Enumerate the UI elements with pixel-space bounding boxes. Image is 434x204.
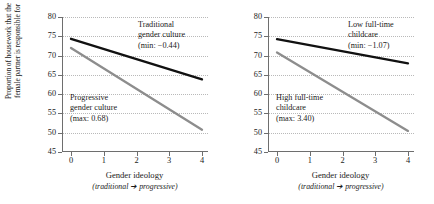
y-tick-label-55: 55 (34, 109, 56, 117)
y-tick-label-80: 80 (34, 13, 56, 21)
annotation-line-1: Traditional (138, 20, 185, 30)
x-tick-label-4: 4 (192, 157, 212, 165)
annotation-line-1: Progressive (70, 93, 117, 103)
plot-area-right: 80 75 70 65 60 55 50 45 0 1 2 3 4 Low fu… (268, 17, 413, 152)
y-axis-title: Proportion of housework that the female … (4, 0, 38, 116)
y-tick-label-70: 70 (240, 52, 262, 60)
x-tick-label-4: 4 (398, 157, 418, 165)
annotation-line-1: Low full-time (348, 20, 394, 30)
x-axis-subtitle: (traditional ➔ progressive) (261, 182, 421, 191)
y-tick-45 (264, 152, 268, 153)
x-tick-label-0: 0 (267, 157, 287, 165)
y-tick-label-75: 75 (34, 32, 56, 40)
chart-panel-right: 80 75 70 65 60 55 50 45 0 1 2 3 4 Low fu… (217, 0, 434, 204)
annotation-traditional-gender-culture: Traditional gender culture (min: −0.44) (138, 20, 185, 51)
y-tick-label-45: 45 (240, 148, 262, 156)
y-tick-label-70: 70 (34, 52, 56, 60)
x-tick-label-3: 3 (365, 157, 385, 165)
y-tick-label-55: 55 (240, 109, 262, 117)
y-tick-45 (58, 152, 62, 153)
annotation-line-3: (max: 0.68) (70, 114, 117, 124)
annotation-line-2: gender culture (70, 103, 117, 113)
y-tick-label-50: 50 (240, 129, 262, 137)
y-tick-label-75: 75 (240, 32, 262, 40)
x-axis-title: Gender ideology (62, 170, 207, 180)
y-tick-label-60: 60 (34, 90, 56, 98)
annotation-line-3: (min: −0.44) (138, 41, 185, 51)
y-tick-label-80: 80 (240, 13, 262, 21)
plot-area-left: 80 75 70 65 60 55 50 45 0 1 2 3 4 (62, 17, 207, 152)
annotation-line-1: High full-time (276, 93, 323, 103)
y-axis-title-line-1: Proportion of housework that the (4, 0, 13, 116)
x-axis-subtitle-text: (traditional ➔ progressive) (298, 182, 383, 191)
figure-two-panel-line-charts: Proportion of housework that the female … (0, 0, 434, 204)
x-tick-label-1: 1 (300, 157, 320, 165)
x-axis-subtitle: (traditional ➔ progressive) (55, 182, 215, 191)
annotation-line-2: childcare (276, 103, 323, 113)
series-lines-left (62, 17, 207, 152)
annotation-line-2: childcare (348, 30, 394, 40)
y-tick-label-65: 65 (34, 71, 56, 79)
x-tick-label-3: 3 (159, 157, 179, 165)
x-tick-label-2: 2 (333, 157, 353, 165)
x-tick-label-2: 2 (127, 157, 147, 165)
y-tick-label-50: 50 (34, 129, 56, 137)
annotation-low-full-time-childcare: Low full-time childcare (min: −1.07) (348, 20, 394, 51)
annotation-progressive-gender-culture: Progressive gender culture (max: 0.68) (70, 93, 117, 124)
x-axis-title: Gender ideology (268, 170, 413, 180)
chart-panel-left: Proportion of housework that the female … (0, 0, 217, 204)
annotation-line-3: (min: −1.07) (348, 41, 394, 51)
annotation-line-3: (max: 3.40) (276, 114, 323, 124)
annotation-line-2: gender culture (138, 30, 185, 40)
y-tick-label-65: 65 (240, 71, 262, 79)
x-axis-subtitle-text: (traditional ➔ progressive) (92, 182, 177, 191)
x-tick-label-0: 0 (61, 157, 81, 165)
annotation-high-full-time-childcare: High full-time childcare (max: 3.40) (276, 93, 323, 124)
y-axis-title-line-2: female partner is responsible for (13, 0, 22, 116)
y-tick-label-45: 45 (34, 148, 56, 156)
x-tick-label-1: 1 (94, 157, 114, 165)
y-tick-label-60: 60 (240, 90, 262, 98)
